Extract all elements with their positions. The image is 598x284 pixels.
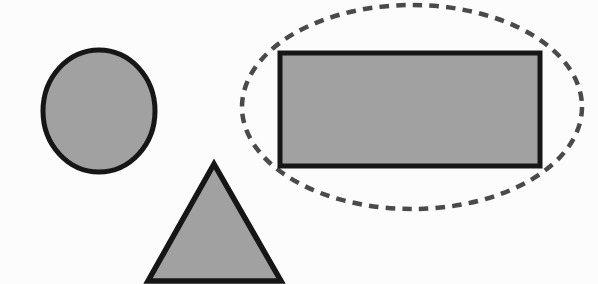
shapes-canvas: [0, 0, 598, 284]
worksheet-graphic: [0, 0, 598, 284]
rectangle-shape: [280, 53, 540, 166]
circle-shape: [43, 50, 155, 172]
triangle-shape: [148, 164, 281, 281]
